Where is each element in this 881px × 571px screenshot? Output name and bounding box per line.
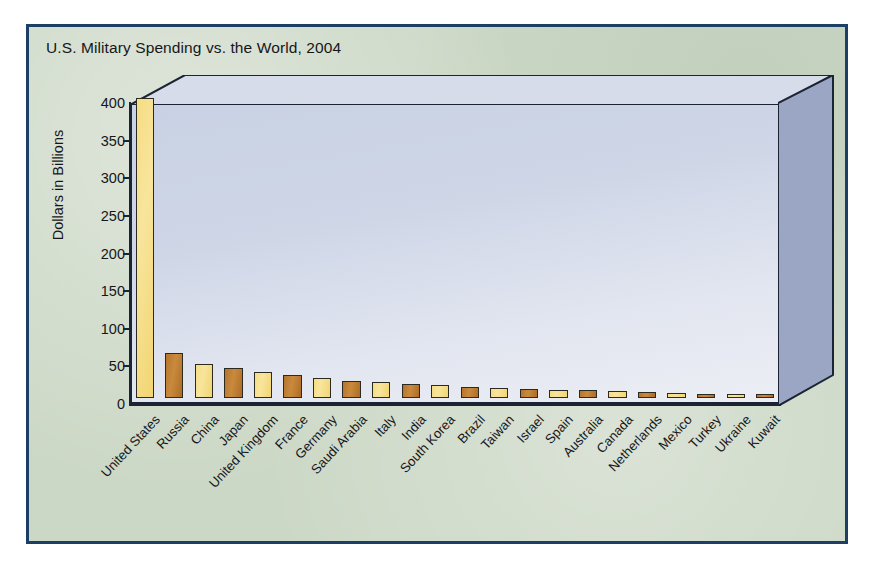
x-axis-label-italy: Italy	[372, 412, 399, 440]
x-axis-label-kuwait: Kuwait	[745, 412, 783, 451]
x-axis-label-united-states: United States	[98, 412, 163, 480]
x-axis-label-china: China	[187, 412, 221, 447]
chart-title: U.S. Military Spending vs. the World, 20…	[46, 39, 341, 57]
plot-area: 400350300250200150100500 Dollars in Bill…	[29, 27, 845, 541]
figure-frame: U.S. Military Spending vs. the World, 20…	[26, 24, 848, 544]
x-axis-label-israel: Israel	[514, 412, 547, 446]
x-axis-label-russia: Russia	[154, 412, 192, 452]
x-axis-category-labels: United StatesRussiaChinaJapanUnited King…	[29, 27, 845, 541]
